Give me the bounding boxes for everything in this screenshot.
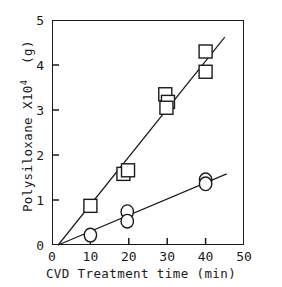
data-markers	[84, 45, 212, 242]
marker-square	[199, 45, 212, 58]
y-axis-title-unit: (g)	[20, 40, 35, 64]
y-axis-title-exponent: 4	[19, 80, 29, 86]
y-tick-label: 5	[22, 14, 44, 27]
x-tick-label: 20	[114, 250, 144, 263]
y-axis-title: Polysiloxane X104 (g)	[19, 26, 35, 226]
x-tick-label: 40	[191, 250, 221, 263]
marker-circle	[84, 228, 96, 242]
chart-figure: 012345 01020304050 Polysiloxane X104 (g)…	[0, 0, 282, 287]
marker-square	[160, 101, 173, 114]
x-tick-label: 50	[229, 250, 259, 263]
marker-circle	[121, 214, 133, 228]
marker-square	[122, 164, 135, 177]
y-axis-title-text: Polysiloxane X10	[20, 85, 35, 212]
marker-square	[84, 199, 97, 212]
marker-circle	[199, 177, 211, 191]
x-tick-label: 30	[152, 250, 182, 263]
x-tick-label: 0	[37, 250, 67, 263]
marker-square	[199, 65, 212, 78]
x-axis-title: CVD Treatment time (min)	[0, 266, 282, 281]
x-tick-label: 10	[75, 250, 105, 263]
